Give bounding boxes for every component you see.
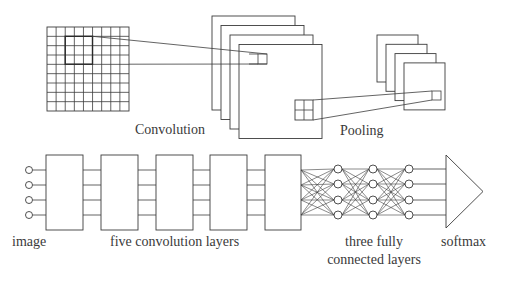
fc-neuron-layer-3 [405,165,413,173]
input-node [26,182,33,189]
input-node [26,197,33,204]
label-three-fully: three fully [345,234,403,249]
fc-neuron-layer-3 [405,180,413,188]
fc-neuron-layer-1 [334,211,342,219]
fc-neuron-layer-3 [405,211,413,219]
fc-neuron-layer-1 [334,196,342,204]
network-pipeline [26,155,484,230]
label-connected-layers: connected layers [327,252,421,267]
fc-connection [301,169,334,170]
conv-layer-box-1 [46,155,83,230]
fc-neuron-layer-2 [369,180,377,188]
convolution-pooling-illustration [47,16,445,139]
fc-neuron-layer-2 [369,165,377,173]
input-node [26,167,33,174]
conv-layer-box-4 [210,155,247,230]
pooled-feature-map [404,63,445,110]
label-softmax: softmax [441,234,486,249]
label-image: image [12,234,46,249]
conv-feature-map [239,45,322,139]
fc-neuron-layer-1 [334,180,342,188]
conv-layer-box-5 [265,155,301,230]
label-five-convolution-layers: five convolution layers [110,234,239,249]
label-pooling: Pooling [340,123,384,138]
label-convolution: Convolution [135,122,205,137]
cnn-architecture-diagram: Convolution Pooling image five convoluti… [0,0,507,283]
fc-neuron-layer-3 [405,196,413,204]
fc-neuron-layer-2 [369,196,377,204]
softmax-arrow [446,155,483,228]
fc-neuron-layer-2 [369,211,377,219]
fc-neuron-layer-1 [334,165,342,173]
conv-layer-box-3 [156,155,193,230]
conv-layer-box-2 [101,155,138,230]
input-image-grid [47,27,129,111]
input-node [26,212,33,219]
